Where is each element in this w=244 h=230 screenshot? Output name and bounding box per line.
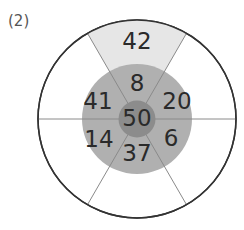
middle-value-bottom: 37 [122,140,151,166]
target-diagram: 42 8 20 41 50 14 6 37 [0,0,244,230]
middle-value-top: 8 [130,70,145,96]
middle-value-lower-left: 14 [84,126,113,152]
middle-value-upper-left: 41 [83,88,112,114]
middle-value-upper-right: 20 [162,88,191,114]
middle-value-lower-right: 6 [164,125,179,151]
center-value: 50 [122,105,151,131]
outer-value-top: 42 [122,28,151,54]
